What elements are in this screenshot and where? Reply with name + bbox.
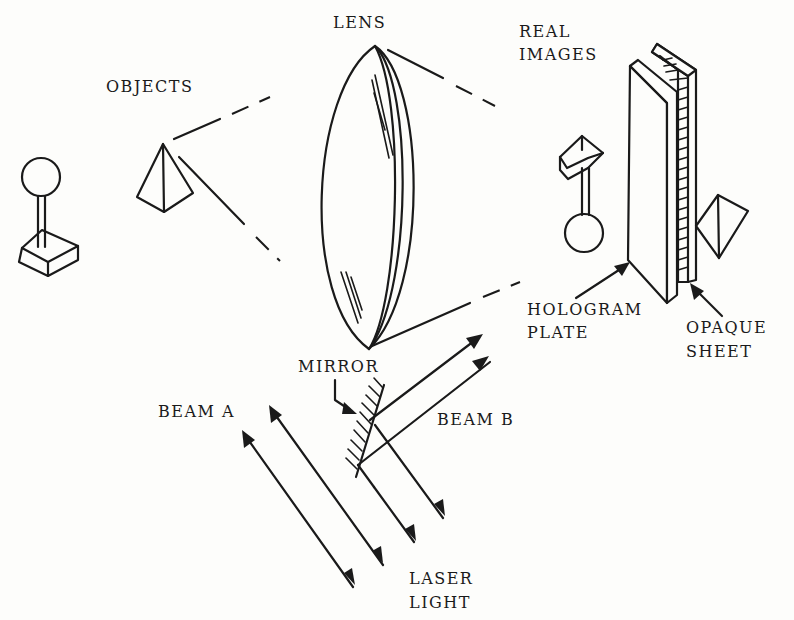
lens-label: LENS [333,10,386,35]
opaque-sheet-label-line1: OPAQUE [686,315,767,340]
hologram-plate [628,60,677,303]
lens [322,46,414,349]
inverted-pyramid-image [696,195,748,258]
inverted-sphere-stand-image [560,136,603,252]
hologram-diagram: OBJECTS LENS REAL IMAGES HOLOGRAM PLATE … [0,0,794,620]
real-images-label-line1: REAL [519,19,571,44]
real-images-label-line2: IMAGES [519,42,598,67]
opaque-sheet-pointer [690,283,722,316]
mirror-pointer [335,380,357,414]
hologram-plate-label-line2: PLATE [527,320,589,345]
laser-light-label-line1: LASER [409,566,473,591]
opaque-sheet-label-line2: SHEET [686,339,752,364]
object-rays [174,97,280,261]
laser-light-label-line2: LIGHT [409,590,471,615]
mirror [346,378,384,477]
opaque-sheet-hatching [678,87,688,270]
mirror-label: MIRROR [298,354,379,379]
beam-a-label: BEAM A [158,399,235,424]
objects-label: OBJECTS [106,74,193,99]
hologram-plate-label-line1: HOLOGRAM [527,297,643,322]
pyramid-object [137,144,193,212]
hologram-plate-pointer [576,262,630,298]
sphere-on-stand-object [19,158,78,276]
beam-b-label: BEAM B [437,407,514,432]
